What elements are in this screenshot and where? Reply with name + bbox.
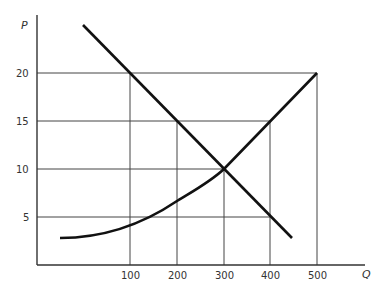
axes [37, 15, 365, 265]
supply-curve [60, 73, 317, 238]
y-tick-20: 20 [16, 68, 29, 79]
x-tick-200: 200 [168, 270, 187, 281]
x-tick-500: 500 [308, 270, 327, 281]
x-tick-300: 300 [215, 270, 234, 281]
x-axis-label: Q [362, 268, 371, 281]
y-tick-10: 10 [16, 164, 29, 175]
y-axis-label: P [21, 19, 28, 32]
supply-demand-chart: P Q 20 15 10 5 100 200 300 400 500 [0, 0, 381, 289]
y-tick-5: 5 [23, 212, 29, 223]
y-tick-15: 15 [16, 116, 29, 127]
x-tick-400: 400 [261, 270, 280, 281]
x-tick-100: 100 [121, 270, 140, 281]
